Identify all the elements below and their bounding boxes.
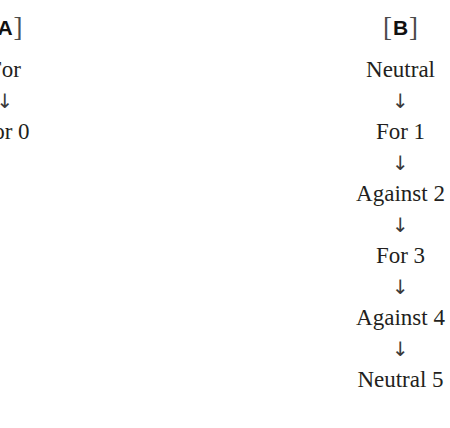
- panel-b-label: [B]: [291, 14, 450, 41]
- panel-a-chain: For ↓ For 0: [0, 56, 115, 146]
- chain-node: For 1: [376, 118, 425, 146]
- panel-b-letter: B: [392, 16, 409, 39]
- chain-node: For: [0, 56, 21, 84]
- down-arrow-icon: ↓: [392, 208, 409, 242]
- panel-a-label: [A]: [0, 14, 115, 41]
- down-arrow-icon: ↓: [392, 146, 409, 180]
- chain-node: Neutral 5: [357, 366, 443, 394]
- bracket-close-icon: ]: [409, 12, 418, 42]
- chain-node: For 3: [376, 242, 425, 270]
- down-arrow-icon: ↓: [392, 332, 409, 366]
- chain-node: For 0: [0, 118, 30, 146]
- down-arrow-icon: ↓: [0, 84, 13, 118]
- bracket-open-icon: [: [383, 12, 392, 42]
- down-arrow-icon: ↓: [392, 270, 409, 304]
- chain-node: Neutral: [366, 56, 435, 84]
- panel-a-letter: A: [0, 16, 14, 39]
- down-arrow-icon: ↓: [392, 84, 409, 118]
- panel-b-chain: Neutral ↓ For 1 ↓ Against 2 ↓ For 3 ↓ Ag…: [291, 56, 450, 394]
- bracket-close-icon: ]: [14, 12, 23, 42]
- chain-node: Against 2: [356, 180, 445, 208]
- panel-b: [B] Neutral ↓ For 1 ↓ Against 2 ↓ For 3 …: [220, 0, 439, 428]
- panel-a: [A] For ↓ For 0: [0, 0, 220, 428]
- chain-node: Against 4: [356, 304, 445, 332]
